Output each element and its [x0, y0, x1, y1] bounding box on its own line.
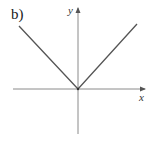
- panel-label: b): [11, 7, 24, 22]
- origin-vertex: [77, 88, 79, 90]
- graph-figure: b) y x: [0, 0, 152, 146]
- x-axis-label: x: [139, 92, 144, 103]
- y-axis-label: y: [68, 5, 73, 16]
